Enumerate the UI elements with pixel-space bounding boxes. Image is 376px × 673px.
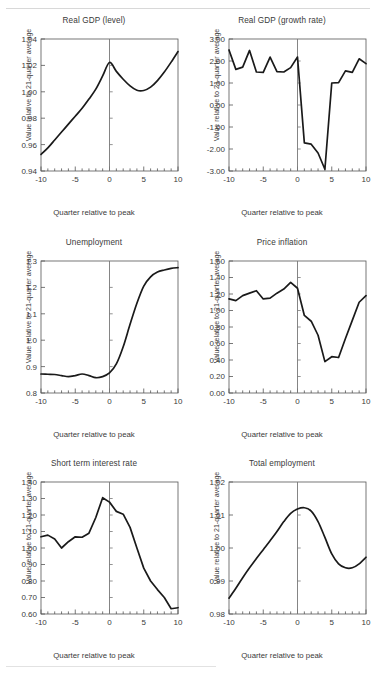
top-divider [6,8,370,9]
plot-area: -3.00-2.00-1.000.001.002.003.00-10-50510… [188,31,376,206]
plot-area: 0.80.91.01.11.21.3-10-50510 Value relati… [0,253,188,428]
x-axis-label: Quarter relative to peak [0,430,188,439]
panel-real-gdp-growth-rate: Real GDP (growth rate) -3.00-2.00-1.000.… [188,12,376,234]
svg-text:10: 10 [362,175,371,184]
y-axis-label: Value relative to 21-quarter average [25,10,33,160]
panel-real-gdp-level: Real GDP (level) 0.940.960.981.001.021.0… [0,12,188,234]
figure-root: Real GDP (level) 0.940.960.981.001.021.0… [0,0,376,673]
y-axis-label: Value relative to 21-quarter average [213,453,221,603]
svg-text:5: 5 [330,175,335,184]
svg-text:-10: -10 [223,618,235,627]
y-axis-label: Value relative to 21-quarter average [213,232,221,382]
y-axis-label: Value relative to 21-quarter average [25,232,33,382]
x-axis-label: Quarter relative to peak [188,208,376,217]
svg-text:10: 10 [174,618,183,627]
panel-unemployment: Unemployment 0.80.91.01.11.21.3-10-50510… [0,234,188,455]
svg-text:-5: -5 [72,175,80,184]
svg-text:-5: -5 [72,618,80,627]
svg-text:-5: -5 [72,397,80,406]
svg-text:10: 10 [174,397,183,406]
svg-text:0: 0 [295,175,300,184]
panel-grid: Real GDP (level) 0.940.960.981.001.021.0… [0,12,376,673]
svg-text:5: 5 [142,175,147,184]
panel-short-term-interest-rate: Short term interest rate 0.600.700.800.9… [0,455,188,673]
x-axis-label: Quarter relative to peak [188,651,376,660]
svg-text:10: 10 [362,618,371,627]
svg-text:0: 0 [107,397,112,406]
svg-text:0: 0 [295,618,300,627]
x-axis-label: Quarter relative to peak [0,651,188,660]
svg-text:5: 5 [330,397,335,406]
plot-area: 0.980.991.001.011.02-10-50510 Value rela… [188,474,376,649]
svg-text:-5: -5 [260,618,268,627]
svg-text:0: 0 [295,397,300,406]
svg-text:0: 0 [107,618,112,627]
svg-text:-10: -10 [223,397,235,406]
svg-text:10: 10 [362,397,371,406]
svg-text:10: 10 [174,175,183,184]
svg-text:-10: -10 [223,175,235,184]
svg-text:-10: -10 [35,175,47,184]
svg-text:5: 5 [330,618,335,627]
y-axis-label: Value relative to 21-quarter average [25,453,33,603]
svg-text:-10: -10 [35,397,47,406]
svg-text:5: 5 [142,397,147,406]
svg-text:-10: -10 [35,618,47,627]
svg-text:0: 0 [107,175,112,184]
plot-area: 0.000.200.400.600.801.001.201.401.60-10-… [188,253,376,428]
plot-area: 0.940.960.981.001.021.04-10-50510 Value … [0,31,188,206]
panel-price-inflation: Price inflation 0.000.200.400.600.801.00… [188,234,376,455]
svg-text:5: 5 [142,618,147,627]
x-axis-label: Quarter relative to peak [188,430,376,439]
svg-text:-5: -5 [260,175,268,184]
y-axis-label: Value relative to 21-quarter average [213,10,221,160]
x-axis-label: Quarter relative to peak [0,208,188,217]
plot-area: 0.600.700.800.901.001.101.201.301.40-10-… [0,474,188,649]
svg-text:-5: -5 [260,397,268,406]
panel-total-employment: Total employment 0.980.991.001.011.02-10… [188,455,376,673]
